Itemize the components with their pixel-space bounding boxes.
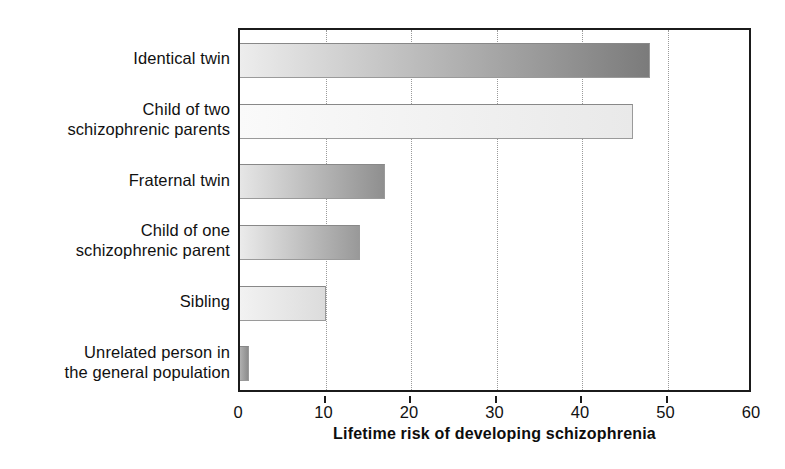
category-label-line: the general population <box>0 362 230 382</box>
category-label-line: schizophrenic parents <box>0 119 230 139</box>
tick-mark-20 <box>409 396 411 403</box>
category-label: Identical twin <box>0 48 230 68</box>
bar <box>240 43 650 78</box>
category-label: Sibling <box>0 291 230 311</box>
gridline-50 <box>668 30 669 390</box>
x-tick-label: 10 <box>314 403 332 422</box>
tick-mark-40 <box>580 396 582 403</box>
gridline-20 <box>411 30 412 390</box>
x-tick-label: 60 <box>742 403 760 422</box>
gridline-30 <box>497 30 498 390</box>
category-axis-labels: Identical twinChild of twoschizophrenic … <box>0 28 230 392</box>
category-label: Child of twoschizophrenic parents <box>0 99 230 139</box>
gridline-40 <box>582 30 583 390</box>
category-label-line: Child of two <box>0 99 230 119</box>
tick-mark-50 <box>666 396 668 403</box>
x-tick-label: 50 <box>656 403 674 422</box>
x-tick-label: 40 <box>571 403 589 422</box>
category-label: Fraternal twin <box>0 170 230 190</box>
category-label-line: schizophrenic parent <box>0 240 230 260</box>
x-tick-label: 0 <box>233 403 242 422</box>
gridline-10 <box>326 30 327 390</box>
tick-mark-10 <box>324 396 326 403</box>
schizophrenia-risk-bar-chart: Identical twinChild of twoschizophrenic … <box>0 0 785 469</box>
plot-area <box>238 28 751 392</box>
category-label: Unrelated person inthe general populatio… <box>0 342 230 382</box>
bar <box>240 104 633 139</box>
category-label-line: Identical twin <box>0 48 230 68</box>
x-tick-label: 30 <box>485 403 503 422</box>
category-label-line: Unrelated person in <box>0 342 230 362</box>
category-label-line: Child of one <box>0 220 230 240</box>
x-axis-ticks: 0102030405060 <box>238 396 751 422</box>
category-label: Child of oneschizophrenic parent <box>0 220 230 260</box>
bar <box>240 225 360 260</box>
category-label-line: Sibling <box>0 291 230 311</box>
bar <box>240 286 326 321</box>
bar <box>240 164 385 199</box>
category-label-line: Fraternal twin <box>0 170 230 190</box>
x-axis-title: Lifetime risk of developing schizophreni… <box>238 425 751 443</box>
x-tick-label: 20 <box>400 403 418 422</box>
tick-mark-30 <box>495 396 497 403</box>
bar <box>240 346 249 381</box>
